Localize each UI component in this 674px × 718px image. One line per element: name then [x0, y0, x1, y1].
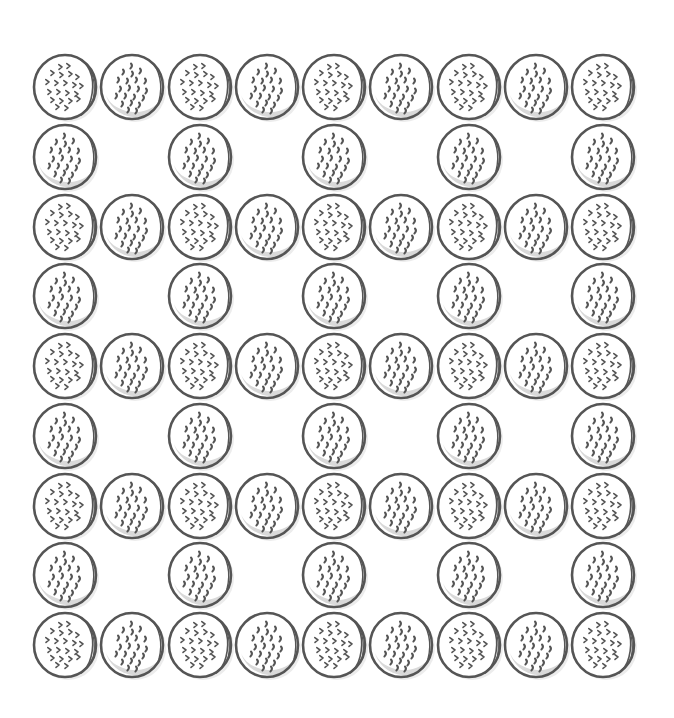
cracker-shaded-icon [233, 611, 301, 679]
cracker-chevron-icon [166, 53, 234, 121]
cracker-chevron-icon [569, 611, 637, 679]
cracker-shaded-icon [166, 123, 234, 191]
cracker-shaded-icon [98, 472, 166, 540]
cracker-chevron-icon [31, 193, 99, 261]
cracker-shaded-icon [98, 332, 166, 400]
cracker-chevron-icon [31, 53, 99, 121]
cracker-chevron-icon [166, 611, 234, 679]
cracker-shaded-icon [300, 262, 368, 330]
cracker-shaded-icon [569, 123, 637, 191]
cracker-shaded-icon [502, 611, 570, 679]
cracker-shaded-icon [569, 262, 637, 330]
cracker-shaded-icon [367, 332, 435, 400]
cracker-chevron-icon [435, 332, 503, 400]
cracker-shaded-icon [435, 541, 503, 609]
cracker-chevron-icon [31, 611, 99, 679]
cracker-chevron-icon [435, 53, 503, 121]
cracker-shaded-icon [31, 123, 99, 191]
cracker-shaded-icon [502, 472, 570, 540]
cracker-shaded-icon [435, 123, 503, 191]
cracker-chevron-icon [166, 193, 234, 261]
cracker-chevron-icon [300, 472, 368, 540]
cracker-shaded-icon [435, 402, 503, 470]
cracker-chevron-icon [166, 332, 234, 400]
cracker-shaded-icon [367, 472, 435, 540]
cracker-chevron-icon [300, 611, 368, 679]
cracker-chevron-icon [435, 611, 503, 679]
cracker-shaded-icon [300, 402, 368, 470]
cracker-shaded-icon [367, 193, 435, 261]
cracker-chevron-icon [166, 472, 234, 540]
cracker-shaded-icon [367, 53, 435, 121]
cracker-chevron-icon [435, 472, 503, 540]
cracker-shaded-icon [31, 262, 99, 330]
cracker-shaded-icon [300, 541, 368, 609]
cracker-shaded-icon [166, 541, 234, 609]
cracker-chevron-icon [300, 332, 368, 400]
cracker-shaded-icon [98, 611, 166, 679]
cracker-shaded-icon [166, 262, 234, 330]
cracker-lattice-illustration [0, 0, 674, 718]
cracker-shaded-icon [31, 541, 99, 609]
cracker-chevron-icon [31, 332, 99, 400]
cracker-shaded-icon [98, 53, 166, 121]
cracker-chevron-icon [300, 193, 368, 261]
cracker-shaded-icon [98, 193, 166, 261]
cracker-chevron-icon [31, 472, 99, 540]
cracker-chevron-icon [435, 193, 503, 261]
cracker-shaded-icon [569, 402, 637, 470]
cracker-chevron-icon [569, 332, 637, 400]
cracker-shaded-icon [233, 53, 301, 121]
cracker-shaded-icon [502, 332, 570, 400]
cracker-chevron-icon [569, 193, 637, 261]
cracker-chevron-icon [569, 472, 637, 540]
cracker-shaded-icon [166, 402, 234, 470]
cracker-shaded-icon [569, 541, 637, 609]
cracker-shaded-icon [502, 193, 570, 261]
cracker-shaded-icon [233, 193, 301, 261]
cracker-shaded-icon [435, 262, 503, 330]
cracker-shaded-icon [367, 611, 435, 679]
cracker-shaded-icon [233, 332, 301, 400]
cracker-shaded-icon [502, 53, 570, 121]
cracker-shaded-icon [233, 472, 301, 540]
cracker-shaded-icon [31, 402, 99, 470]
cracker-chevron-icon [300, 53, 368, 121]
cracker-chevron-icon [569, 53, 637, 121]
cracker-shaded-icon [300, 123, 368, 191]
